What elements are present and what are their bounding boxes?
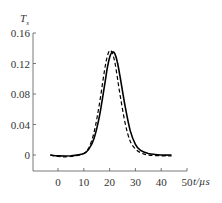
y-axis-title: Ts (20, 12, 29, 27)
y-tick-label: 0.12 (11, 58, 30, 70)
series-group (50, 50, 171, 157)
x-tick-label: 50 (182, 176, 194, 188)
x-tick-label: 30 (130, 176, 142, 188)
x-tick-label: 20 (104, 176, 116, 188)
axes (33, 33, 187, 171)
x-tick-label: 0 (55, 176, 61, 188)
y-tick-label: 0.16 (11, 27, 31, 39)
series-dashed-line (50, 50, 171, 157)
y-ticks: 00.040.080.120.16 (11, 27, 36, 161)
y-tick-label: 0 (25, 149, 31, 161)
series-solid-line (50, 52, 171, 156)
y-tick-label: 0.08 (11, 88, 31, 100)
x-axis-title: t/µs (193, 175, 210, 187)
chart: 00.040.080.120.16 01020304050 Ts t/µs (0, 0, 222, 203)
x-tick-label: 40 (156, 176, 168, 188)
y-tick-label: 0.04 (11, 119, 31, 131)
x-tick-label: 10 (78, 176, 90, 188)
